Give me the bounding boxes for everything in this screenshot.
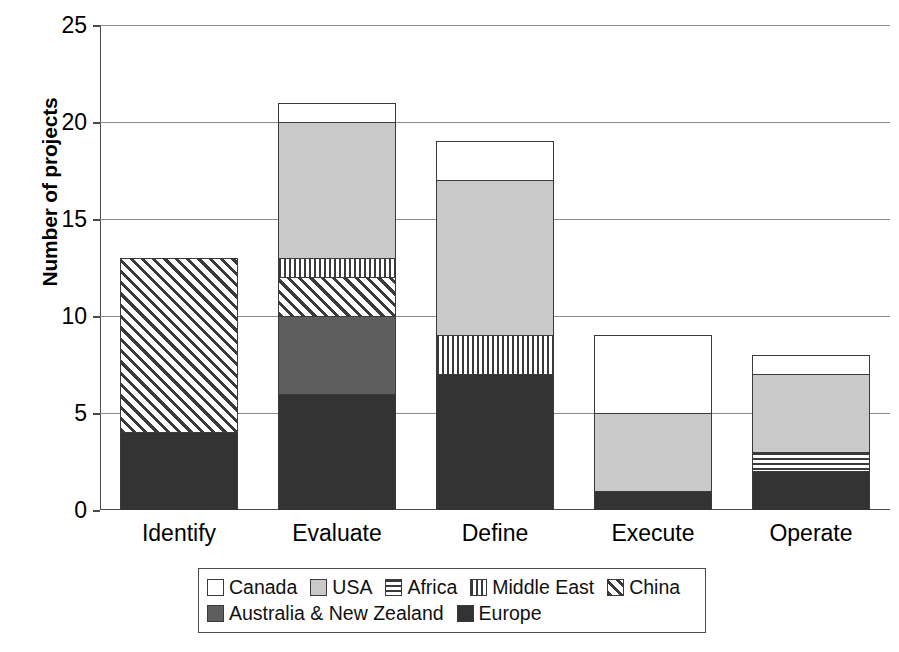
bar-segment-define-europe[interactable]: [436, 374, 554, 510]
bar-segment-execute-canada[interactable]: [594, 335, 712, 413]
plot-area: 0510152025: [100, 25, 890, 510]
bar-execute[interactable]: [594, 335, 712, 510]
bar-segment-evaluate-europe[interactable]: [278, 394, 396, 510]
bar-segment-execute-usa[interactable]: [594, 413, 712, 491]
legend-swatch-usa-icon: [310, 579, 327, 596]
bar-segment-execute-europe[interactable]: [594, 491, 712, 510]
bar-segment-define-middle-east[interactable]: [436, 335, 554, 374]
legend-label-canada: Canada: [229, 578, 297, 597]
y-tick-mark-0: [93, 510, 100, 512]
legend-item-middle-east[interactable]: Middle East: [470, 578, 594, 597]
y-tick-mark-5: [93, 413, 100, 415]
y-tick-mark-25: [93, 25, 100, 27]
y-tick-label-10: 10: [61, 303, 87, 330]
x-tick-label-operate: Operate: [711, 520, 899, 547]
legend-label-china: China: [629, 578, 680, 597]
y-tick-label-5: 5: [74, 400, 87, 427]
legend-label-africa: Africa: [407, 578, 457, 597]
legend-swatch-europe-icon: [457, 605, 474, 622]
legend-label-usa: USA: [332, 578, 372, 597]
bar-segment-operate-europe[interactable]: [752, 471, 870, 510]
legend-swatch-australia-new-zealand-icon: [207, 605, 224, 622]
bar-segment-identify-europe[interactable]: [120, 432, 238, 510]
bar-segment-operate-africa[interactable]: [752, 452, 870, 471]
y-tick-label-20: 20: [61, 109, 87, 136]
legend-swatch-china-icon: [607, 579, 624, 596]
bar-segment-evaluate-canada[interactable]: [278, 103, 396, 122]
legend-item-europe[interactable]: Europe: [457, 604, 542, 623]
legend-swatch-middle-east-icon: [470, 579, 487, 596]
bar-segment-identify-china[interactable]: [120, 258, 238, 433]
bar-segment-evaluate-china[interactable]: [278, 277, 396, 316]
y-tick-label-25: 25: [61, 12, 87, 39]
bar-segment-evaluate-australia-new-zealand[interactable]: [278, 316, 396, 394]
legend-swatch-africa-icon: [385, 579, 402, 596]
legend-label-europe: Europe: [479, 604, 542, 623]
legend-item-australia-new-zealand[interactable]: Australia & New Zealand: [207, 604, 444, 623]
gridline-25: [100, 25, 890, 26]
y-tick-mark-20: [93, 122, 100, 124]
bar-segment-evaluate-usa[interactable]: [278, 122, 396, 258]
gridline-20: [100, 122, 890, 123]
bar-segment-define-usa[interactable]: [436, 180, 554, 335]
chart-figure: Number of projects 0510152025 IdentifyEv…: [0, 0, 899, 652]
y-tick-mark-15: [93, 219, 100, 221]
legend-item-china[interactable]: China: [607, 578, 680, 597]
bar-operate[interactable]: [752, 355, 870, 510]
bar-segment-define-canada[interactable]: [436, 141, 554, 180]
bar-evaluate[interactable]: [278, 103, 396, 510]
legend-label-australia-new-zealand: Australia & New Zealand: [229, 604, 444, 623]
y-tick-label-15: 15: [61, 206, 87, 233]
bar-segment-evaluate-middle-east[interactable]: [278, 258, 396, 277]
y-axis-title: Number of projects: [38, 72, 62, 312]
bar-identify[interactable]: [120, 258, 238, 510]
legend-item-usa[interactable]: USA: [310, 578, 372, 597]
legend-item-africa[interactable]: Africa: [385, 578, 457, 597]
bar-segment-operate-usa[interactable]: [752, 374, 870, 452]
legend-row-2: Australia & New ZealandEurope: [207, 600, 697, 626]
legend-item-canada[interactable]: Canada: [207, 578, 297, 597]
legend-label-middle-east: Middle East: [492, 578, 594, 597]
y-tick-mark-10: [93, 316, 100, 318]
bar-define[interactable]: [436, 141, 554, 510]
chart-legend: CanadaUSAAfricaMiddle EastChinaAustralia…: [198, 568, 706, 633]
bar-segment-operate-canada[interactable]: [752, 355, 870, 374]
legend-swatch-canada-icon: [207, 579, 224, 596]
legend-row-1: CanadaUSAAfricaMiddle EastChina: [207, 574, 697, 600]
